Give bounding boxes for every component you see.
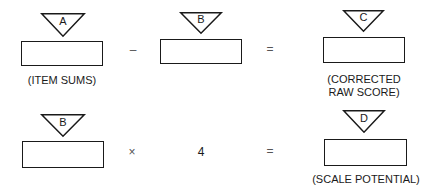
caption-line-1: (CORRECTED (314, 73, 414, 86)
input-box-c[interactable] (323, 37, 405, 63)
marker-triangle-b-2: B (41, 114, 85, 137)
input-box-b-2[interactable] (22, 141, 104, 168)
operator-times: × (122, 145, 142, 159)
marker-label-b-2: B (41, 116, 85, 128)
input-box-a[interactable] (21, 41, 103, 66)
marker-label-b: B (180, 13, 222, 25)
input-box-b[interactable] (160, 39, 242, 64)
marker-triangle-b: B (180, 12, 222, 34)
marker-label-c: C (343, 11, 384, 23)
marker-triangle-a: A (41, 13, 85, 37)
caption-line-2: RAW SCORE) (314, 86, 414, 99)
input-box-d[interactable] (324, 139, 407, 166)
operator-minus: – (123, 43, 143, 57)
caption-item-sums: (ITEM SUMS) (14, 74, 110, 87)
operator-equals: = (260, 42, 280, 56)
marker-triangle-c: C (343, 10, 384, 32)
caption-corrected-raw-score: (CORRECTED RAW SCORE) (314, 73, 414, 99)
marker-label-a: A (41, 15, 85, 27)
caption-scale-potential: (SCALE POTENTIAL) (300, 173, 432, 186)
marker-label-d: D (343, 112, 385, 124)
operator-equals-2: = (260, 144, 280, 158)
marker-triangle-d: D (343, 110, 385, 133)
constant-four: 4 (191, 145, 211, 159)
